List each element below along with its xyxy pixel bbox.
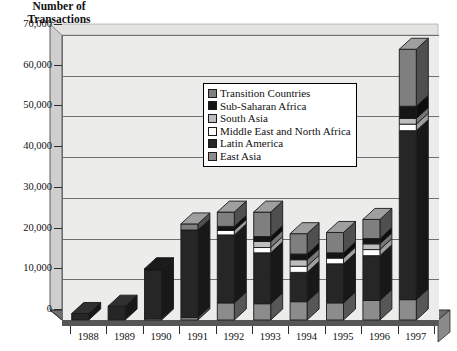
legend-item-south-asia[interactable]: South Asia [208, 112, 351, 125]
legend-item-middle-east-and-north-africa[interactable]: Middle East and North Africa [208, 125, 351, 138]
y-tick-mark-30000 [54, 187, 62, 188]
legend-item-east-asia[interactable]: East Asia [208, 150, 351, 163]
y-tick-label-0: 0 [0, 304, 52, 315]
x-tick-mark-1990 [143, 326, 144, 334]
legend-swatch-icon [208, 101, 217, 110]
y-tick-label-10000: 10,000 [0, 263, 52, 274]
y-tick-mark-70000 [54, 24, 62, 25]
bar-1997 [0, 0, 457, 351]
legend-swatch-icon [208, 152, 217, 161]
y-tick-label-70000: 70,000 [0, 19, 52, 30]
legend-swatch-icon [208, 127, 217, 136]
legend-item-label: Latin America [220, 137, 283, 150]
x-tick-mark-1994 [288, 326, 289, 334]
y-tick-label-40000: 40,000 [0, 141, 52, 152]
y-tick-mark-40000 [54, 146, 62, 147]
bar-segment-1997-middle-east-and-north-africa [399, 124, 416, 131]
legend-swatch-icon [208, 139, 217, 148]
bar-3d-faces-1997 [0, 0, 457, 351]
legend-item-sub-saharan-africa[interactable]: Sub-Saharan Africa [208, 100, 351, 113]
y-tick-mark-50000 [54, 105, 62, 106]
x-tick-mark-1995 [325, 326, 326, 334]
bar-segment-1997-transition-countries [399, 49, 416, 106]
bar-segment-1997-sub-saharan-africa [399, 106, 416, 118]
legend-item-label: Sub-Saharan Africa [220, 100, 306, 113]
x-tick-mark-1993 [252, 326, 253, 334]
bar-segment-1997-latin-america [399, 131, 416, 300]
legend-item-label: Middle East and North Africa [220, 125, 351, 138]
bar-segment-1997-south-asia [399, 118, 416, 124]
x-tick-mark-1988 [70, 326, 71, 334]
legend-item-label: East Asia [220, 150, 261, 163]
y-tick-mark-60000 [54, 65, 62, 66]
x-tick-mark-1991 [179, 326, 180, 334]
legend-item-label: South Asia [220, 112, 268, 125]
y-tick-label-30000: 30,000 [0, 182, 52, 193]
legend-swatch-icon [208, 89, 217, 98]
legend-item-transition-countries[interactable]: Transition Countries [208, 87, 351, 100]
legend-swatch-icon [208, 114, 217, 123]
stacked-bar-chart: Number of Transactions 010,00020,00030,0… [0, 0, 457, 351]
x-tick-mark-1989 [106, 326, 107, 334]
legend-item-label: Transition Countries [220, 87, 310, 100]
y-tick-mark-0 [54, 309, 62, 310]
bar-side-1997 [416, 38, 428, 106]
y-tick-mark-20000 [54, 228, 62, 229]
x-tick-mark-1996 [361, 326, 362, 334]
y-tick-label-60000: 60,000 [0, 60, 52, 71]
y-tick-label-20000: 20,000 [0, 223, 52, 234]
chart-legend: Transition CountriesSub-Saharan AfricaSo… [203, 83, 357, 167]
legend-item-latin-america[interactable]: Latin America [208, 137, 351, 150]
y-tick-mark-10000 [54, 268, 62, 269]
bar-segment-1997-east-asia [399, 300, 416, 320]
y-tick-label-50000: 50,000 [0, 100, 52, 111]
x-tick-mark-1992 [216, 326, 217, 334]
x-tick-mark-end [434, 326, 435, 334]
x-tick-label-1997: 1997 [394, 331, 438, 342]
x-tick-mark-1997 [398, 326, 399, 334]
bar-side-1997 [416, 120, 428, 300]
